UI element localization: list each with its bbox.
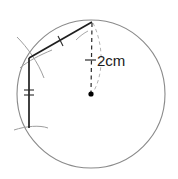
construction-arc-bottom xyxy=(14,126,48,130)
dashed-radius-line xyxy=(91,23,92,93)
geometry-figure: 2cm xyxy=(0,0,178,179)
construction-arc-chord-end xyxy=(76,31,88,40)
radius-measurement-label: 2cm xyxy=(97,52,125,69)
center-dot xyxy=(88,91,93,96)
geometry-canvas: 2cm xyxy=(0,0,178,179)
construction-arc-left xyxy=(20,50,52,68)
